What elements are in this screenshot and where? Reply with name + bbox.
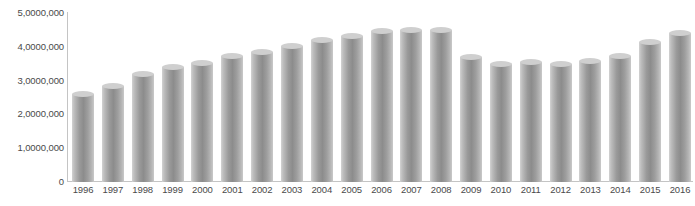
x-axis-tick-label: 2005 [337, 184, 367, 195]
bar-slot [575, 0, 605, 182]
bar-cap [162, 64, 184, 70]
bar-slot [98, 0, 128, 182]
y-axis-tick-label: 0 [0, 176, 64, 187]
x-axis-tick-label: 2003 [277, 184, 307, 195]
bar-slot [516, 0, 546, 182]
x-axis-tick-label: 1997 [98, 184, 128, 195]
bar-slot [605, 0, 635, 182]
bar-cap [221, 53, 243, 59]
y-axis-tick-label: 5,0000,000 [0, 7, 64, 18]
bar-slot [635, 0, 665, 182]
bar-slot [396, 0, 426, 182]
bar-slot [486, 0, 516, 182]
x-axis-tick-label: 2008 [426, 184, 456, 195]
bar-cap [251, 49, 273, 55]
x-axis-tick-label: 2004 [307, 184, 337, 195]
x-axis-tick-label: 2000 [187, 184, 217, 195]
plot-area [68, 0, 695, 182]
bar-slot [665, 0, 695, 182]
x-axis-tick-label: 2002 [247, 184, 277, 195]
bar-cap [371, 28, 393, 34]
bar-cap [550, 61, 572, 67]
y-axis-tick-label: 2,0000,000 [0, 108, 64, 119]
bar[interactable] [251, 52, 273, 182]
x-axis-tick-label: 2014 [605, 184, 635, 195]
bar-cap [669, 30, 691, 36]
x-axis-tick-label: 2016 [665, 184, 695, 195]
bar-cap [579, 58, 601, 64]
bar-slot [546, 0, 576, 182]
bar-slot [337, 0, 367, 182]
y-axis-tick-label: 4,0000,000 [0, 40, 64, 51]
x-axis-tick-label: 2010 [486, 184, 516, 195]
bar[interactable] [281, 46, 303, 182]
bar-slot [247, 0, 277, 182]
bar[interactable] [132, 74, 154, 182]
bar-cap [430, 27, 452, 33]
bar[interactable] [162, 67, 184, 182]
x-axis-tick-label: 2012 [546, 184, 576, 195]
x-axis-tick-label: 2015 [635, 184, 665, 195]
bar-cap [400, 27, 422, 33]
bar[interactable] [460, 57, 482, 182]
y-axis-labels: 5,0000,0004,0000,0003,0000,0002,0000,000… [0, 0, 64, 206]
bar[interactable] [341, 36, 363, 182]
bar-slot [426, 0, 456, 182]
bar[interactable] [579, 61, 601, 182]
bar-slot [307, 0, 337, 182]
bar[interactable] [550, 64, 572, 182]
bar-cap [72, 91, 94, 97]
x-axis-tick-label: 2009 [456, 184, 486, 195]
bar-cap [609, 53, 631, 59]
bar-cap [281, 43, 303, 49]
bar-cap [191, 60, 213, 66]
x-axis-tick-label: 2007 [396, 184, 426, 195]
bar-slot [456, 0, 486, 182]
y-axis-tick-label: 3,0000,000 [0, 74, 64, 85]
x-axis-tick-label: 2011 [516, 184, 546, 195]
bar-cap [520, 59, 542, 65]
bar-cap [311, 37, 333, 43]
bar[interactable] [371, 31, 393, 182]
bar[interactable] [520, 62, 542, 182]
x-axis-tick-label: 2006 [367, 184, 397, 195]
y-axis-tick-label: 1,0000,000 [0, 142, 64, 153]
x-axis-tick-label: 2013 [575, 184, 605, 195]
bar-chart: 5,0000,0004,0000,0003,0000,0002,0000,000… [0, 0, 695, 206]
bar-cap [102, 83, 124, 89]
x-axis-tick-label: 2001 [217, 184, 247, 195]
bar[interactable] [311, 40, 333, 182]
bar-cap [460, 54, 482, 60]
bar-slot [128, 0, 158, 182]
bar[interactable] [191, 63, 213, 182]
bar-cap [132, 71, 154, 77]
bar-slot [68, 0, 98, 182]
bar[interactable] [221, 56, 243, 182]
bar-slot [217, 0, 247, 182]
x-axis-tick-label: 1998 [128, 184, 158, 195]
bar-slot [187, 0, 217, 182]
bar[interactable] [609, 56, 631, 182]
bar[interactable] [490, 64, 512, 182]
bar-slot [367, 0, 397, 182]
bar-cap [341, 33, 363, 39]
bar[interactable] [669, 33, 691, 182]
bar[interactable] [639, 42, 661, 182]
bar[interactable] [430, 30, 452, 182]
bar-cap [490, 61, 512, 67]
x-axis-tick-label: 1999 [158, 184, 188, 195]
bar-slot [277, 0, 307, 182]
bar[interactable] [102, 86, 124, 182]
bar-slot [158, 0, 188, 182]
x-axis-labels: 1996199719981999200020012002200320042005… [68, 184, 695, 204]
bar[interactable] [72, 94, 94, 182]
x-axis-tick-label: 1996 [68, 184, 98, 195]
bar[interactable] [400, 30, 422, 182]
bar-cap [639, 39, 661, 45]
